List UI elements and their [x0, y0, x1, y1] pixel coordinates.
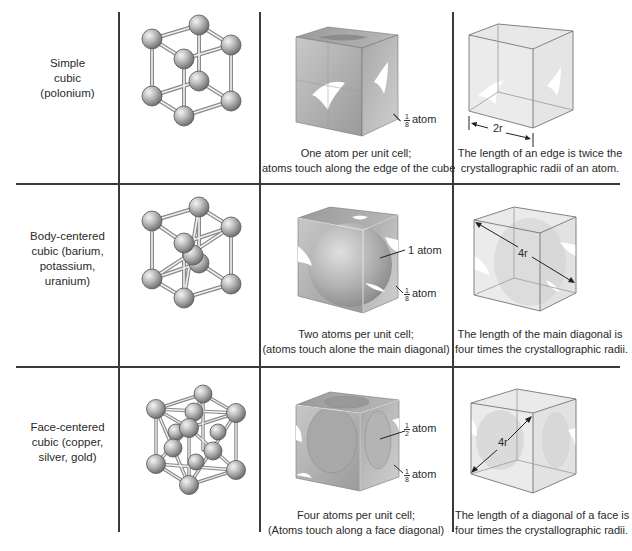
- caption-line: (Atoms touch along a face diagonal): [262, 523, 450, 538]
- annotation-eighth-atom: 18atom: [404, 468, 436, 483]
- structure-label-simple-cubic: Simple cubic (polonium): [20, 56, 115, 101]
- annotation-one-atom: 1 atom: [408, 244, 442, 256]
- grid-vertical-line-1: [118, 12, 120, 532]
- label-line: Body-centered: [20, 229, 115, 244]
- caption-line: Two atoms per unit cell;: [262, 327, 450, 342]
- face-centered-cubic-face-diagonal-geometry: [460, 380, 590, 505]
- label-line: (polonium): [20, 86, 115, 101]
- body-centered-cubic-lattice-diagram: [130, 195, 250, 320]
- structure-label-body-centered-cubic: Body-centered cubic (barium, potassium, …: [20, 229, 115, 289]
- grid-horizontal-line-2: [16, 366, 620, 368]
- packing-caption-face-centered-cubic: Four atoms per unit cell; (Atoms touch a…: [262, 508, 450, 538]
- caption-line: One atom per unit cell;: [262, 146, 450, 161]
- label-line: Simple: [20, 56, 115, 71]
- label-line: uranium): [20, 274, 115, 289]
- caption-line: Four atoms per unit cell;: [262, 508, 450, 523]
- annotation-text: atom: [412, 287, 436, 299]
- annotation-text: atom: [412, 468, 436, 480]
- body-centered-cubic-diagonal-geometry: [460, 200, 590, 325]
- label-line: silver, gold): [20, 450, 115, 465]
- face-diagonal-label: 4r: [498, 436, 508, 448]
- simple-cubic-packing-cube: [290, 20, 405, 142]
- fraction: 18: [404, 468, 410, 483]
- structure-label-face-centered-cubic: Face-centered cubic (copper, silver, gol…: [20, 420, 115, 465]
- annotation-text: atom: [412, 113, 436, 125]
- numerator: 1: [404, 468, 410, 476]
- denominator: 8: [404, 476, 410, 483]
- caption-line: The length of the main diagonal is: [455, 327, 625, 342]
- denominator: 2: [404, 430, 410, 437]
- label-line: Face-centered: [20, 420, 115, 435]
- caption-line: four times the crystallographic radii.: [455, 523, 625, 538]
- fraction: 12: [404, 422, 410, 437]
- denominator: 8: [404, 295, 410, 302]
- main-diagonal-label: 4r: [518, 247, 528, 259]
- caption-line: The length of an edge is twice the: [455, 146, 625, 161]
- annotation-eighth-atom: 18atom: [404, 287, 436, 302]
- annotation-text: atom: [412, 422, 436, 434]
- grid-vertical-line-3: [452, 12, 454, 532]
- face-centered-cubic-packing-cube: [290, 380, 405, 505]
- caption-line: four times the crystallographic radii.: [455, 342, 625, 357]
- packing-caption-body-centered-cubic: Two atoms per unit cell; (atoms touch al…: [262, 327, 450, 357]
- label-line: cubic: [20, 71, 115, 86]
- caption-line: (atoms touch alone the main diagonal): [262, 342, 450, 357]
- simple-cubic-edge-geometry: [460, 18, 590, 148]
- denominator: 8: [404, 121, 410, 128]
- caption-line: crystallographic radii of an atom.: [455, 161, 625, 176]
- grid-horizontal-line-1: [16, 183, 620, 185]
- packing-caption-simple-cubic: One atom per unit cell; atoms touch alon…: [262, 146, 450, 176]
- fraction: 18: [404, 113, 410, 128]
- numerator: 1: [404, 287, 410, 295]
- geometry-caption-body-centered-cubic: The length of the main diagonal is four …: [455, 327, 625, 357]
- simple-cubic-lattice-diagram: [130, 10, 250, 135]
- caption-line: atoms touch along the edge of the cube: [262, 161, 450, 176]
- edge-length-label: 2r: [493, 122, 503, 134]
- label-line: potassium,: [20, 259, 115, 274]
- numerator: 1: [404, 422, 410, 430]
- annotation-half-atom: 12atom: [404, 422, 436, 437]
- body-centered-cubic-packing-cube: [290, 200, 405, 325]
- geometry-caption-face-centered-cubic: The length of a diagonal of a face is fo…: [455, 508, 625, 538]
- fraction: 18: [404, 287, 410, 302]
- label-line: cubic (copper,: [20, 435, 115, 450]
- face-centered-cubic-lattice-diagram: [135, 380, 260, 500]
- geometry-caption-simple-cubic: The length of an edge is twice the cryst…: [455, 146, 625, 176]
- label-line: cubic (barium,: [20, 244, 115, 259]
- numerator: 1: [404, 113, 410, 121]
- annotation-eighth-atom: 18atom: [404, 113, 436, 128]
- caption-line: The length of a diagonal of a face is: [455, 508, 625, 523]
